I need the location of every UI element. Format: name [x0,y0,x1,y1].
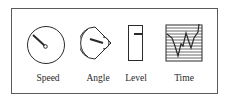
dial-gauge-icon [26,25,66,65]
time-series-chart-icon [165,24,203,62]
item-label: Speed [36,73,59,83]
item-label: Angle [86,73,109,83]
item-label: Time [174,73,194,83]
sector-gauge-icon [80,25,114,63]
diagram-frame: Speed Angle Level [11,8,218,94]
vertical-level-gauge-icon [127,24,145,62]
item-label: Level [125,73,147,83]
